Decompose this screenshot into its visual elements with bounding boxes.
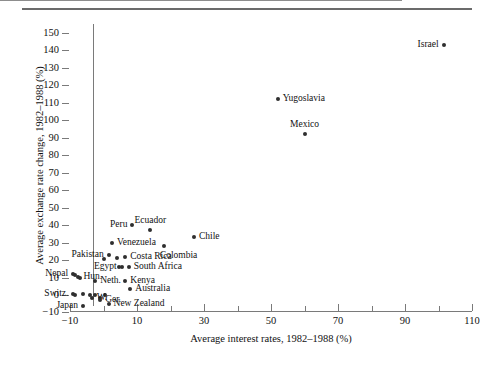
x-tick-label: 70 <box>318 316 358 327</box>
x-tick-label: 110 <box>452 316 492 327</box>
data-point-label: Mexico <box>290 120 319 130</box>
y-tick <box>62 208 69 209</box>
data-point-label: Ecuador <box>134 216 166 226</box>
data-point-label: Neth. <box>100 276 121 286</box>
data-point-label: Israel <box>418 40 439 50</box>
y-tick <box>62 85 69 86</box>
data-point <box>128 287 132 291</box>
data-point <box>120 265 124 269</box>
data-point-label: New Zealand <box>114 299 165 309</box>
data-point-label: South Africa <box>134 262 182 272</box>
x-tick-minor <box>238 306 239 311</box>
data-point-label: Yugoslavia <box>283 94 325 104</box>
x-tick-label: 90 <box>385 316 425 327</box>
plot-area: −100102030405060708090100110120130140150… <box>0 0 492 365</box>
x-tick-minor <box>372 306 373 311</box>
data-point <box>123 279 127 283</box>
y-tick <box>62 33 69 34</box>
data-point <box>107 253 111 257</box>
x-tick-label: 50 <box>251 316 291 327</box>
y-tick <box>62 120 69 121</box>
y-tick <box>62 50 69 51</box>
y-tick <box>62 138 69 139</box>
data-point <box>162 244 166 248</box>
x-tick <box>338 304 339 311</box>
data-point <box>110 241 114 245</box>
y-tick <box>62 103 69 104</box>
data-point <box>130 223 134 227</box>
y-tick <box>62 190 69 191</box>
y-tick <box>62 312 69 313</box>
data-point <box>192 235 196 239</box>
x-tick <box>204 304 205 311</box>
data-point <box>81 292 85 296</box>
data-point <box>148 228 152 232</box>
data-point <box>93 279 97 283</box>
y-axis-title: Average exchange rate change, 1982–1988 … <box>34 41 45 291</box>
x-tick-minor <box>305 306 306 311</box>
data-point-label: Switz. <box>44 289 68 299</box>
x-tick-label: −10 <box>50 316 90 327</box>
x-axis-line <box>70 311 472 312</box>
data-point <box>303 132 307 136</box>
data-point-label: Chile <box>199 232 220 242</box>
data-point-label: Japan <box>56 301 78 311</box>
y-tick <box>62 155 69 156</box>
y-tick <box>62 173 69 174</box>
data-point <box>442 43 446 47</box>
y-tick <box>62 243 69 244</box>
zero-reference-line <box>0 0 402 1</box>
x-tick-minor <box>171 306 172 311</box>
data-point-label: Costa Rica <box>130 252 171 262</box>
data-point <box>127 265 131 269</box>
y-tick <box>62 260 69 261</box>
data-point <box>81 304 85 308</box>
x-tick <box>271 304 272 311</box>
data-point-label: Venezuela <box>117 238 156 248</box>
data-point-label: Peru <box>110 220 127 230</box>
data-point <box>123 255 127 259</box>
y-tick <box>62 225 69 226</box>
data-point <box>107 302 111 306</box>
data-point-label: Nepal <box>45 269 68 279</box>
x-axis-title: Average interest rates, 1982–1988 (%) <box>70 333 472 344</box>
data-point <box>115 256 119 260</box>
data-point <box>90 296 94 300</box>
scatter-plot-figure: −100102030405060708090100110120130140150… <box>0 0 492 365</box>
x-tick <box>405 304 406 311</box>
y-tick <box>62 68 69 69</box>
data-point-label: Pakistan <box>72 250 104 260</box>
x-tick-label: 30 <box>184 316 224 327</box>
x-tick-label: 10 <box>117 316 157 327</box>
data-point <box>276 97 280 101</box>
y-tick-label: 150 <box>33 28 59 39</box>
x-tick-minor <box>104 306 105 311</box>
x-tick-minor <box>439 306 440 311</box>
x-tick <box>472 304 473 311</box>
data-point-label: Australia <box>135 284 170 294</box>
